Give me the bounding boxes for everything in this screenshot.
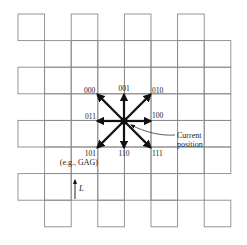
lattice-cell (204, 94, 231, 121)
move-arrow-101 (97, 121, 124, 148)
lattice-cell (151, 200, 178, 227)
move-label-011: 011 (85, 112, 96, 121)
lattice-cell (18, 174, 45, 201)
move-label-000: 000 (84, 86, 96, 95)
lattice-cell (178, 94, 205, 121)
lattice-cell (124, 174, 151, 201)
lattice-cell (178, 174, 205, 201)
lattice-cell (151, 174, 178, 201)
lattice-cell (178, 67, 205, 94)
move-label-110: 110 (119, 149, 130, 158)
length-indicator: L (75, 180, 84, 199)
lattice-cell (45, 41, 72, 68)
lattice-cell (151, 41, 178, 68)
lattice-cell (18, 14, 45, 41)
lattice-cell (178, 41, 205, 68)
example-label: (e.g., GAG) (60, 158, 99, 167)
length-label: L (78, 183, 84, 193)
lattice-cell (45, 94, 72, 121)
move-label-010: 010 (152, 86, 164, 95)
lattice-cell (178, 147, 205, 174)
current-position-label-line2: position (177, 140, 203, 149)
lattice-cell (18, 120, 45, 147)
lattice-cell (204, 200, 231, 227)
lattice-cell (45, 174, 72, 201)
lattice-cell (204, 120, 231, 147)
lattice-cell (204, 147, 231, 174)
lattice-cell (204, 67, 231, 94)
lattice-cell (18, 67, 45, 94)
move-arrow-000 (97, 94, 124, 121)
move-arrow-111 (124, 121, 151, 148)
lattice-cell (124, 41, 151, 68)
current-position-callout: Current position (131, 125, 203, 149)
lattice-cell (98, 200, 125, 227)
lattice-cell (45, 200, 72, 227)
lattice-cell (98, 174, 125, 201)
lattice-cell (71, 120, 98, 147)
move-label-101: 101 (85, 149, 97, 158)
lattice-cell (124, 14, 151, 41)
move-label-001: 001 (118, 84, 130, 93)
lattice-cell (45, 67, 72, 94)
lattice-cell (98, 41, 125, 68)
lattice-cell (204, 41, 231, 68)
diagram-canvas: 000001010011100101110111 (e.g., GAG) Cur… (0, 0, 247, 245)
lattice-cell (71, 14, 98, 41)
current-position-dot (121, 118, 128, 125)
lattice-cell (178, 14, 205, 41)
current-position-label-line1: Current (177, 131, 202, 140)
move-label-100: 100 (152, 111, 164, 120)
move-arrows (97, 94, 150, 147)
lattice-cell (45, 120, 72, 147)
lattice-diagram: 000001010011100101110111 (e.g., GAG) Cur… (0, 0, 247, 245)
move-arrow-010 (124, 94, 151, 121)
lattice-cell (71, 41, 98, 68)
move-label-111: 111 (152, 149, 163, 158)
